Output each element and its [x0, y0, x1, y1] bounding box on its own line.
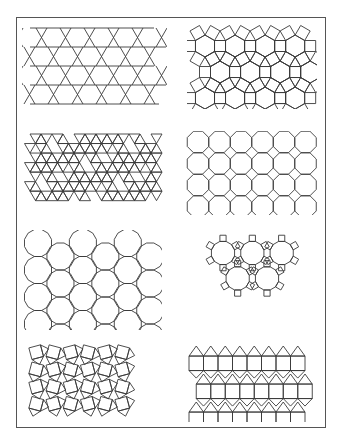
truncated-hexagonal-tiling-panel	[22, 230, 162, 330]
truncated-trihexagonal-tiling-panel	[186, 233, 318, 311]
snub-square-tiling-panel	[24, 340, 162, 422]
snub-hexagonal-tiling-panel	[24, 132, 164, 210]
rhombitrihexagonal-tiling-panel	[187, 24, 317, 109]
elongated-triangular-tiling-panel	[185, 340, 319, 422]
truncated-square-tiling-panel	[186, 131, 318, 215]
trihexagonal-tiling-panel	[22, 24, 167, 114]
